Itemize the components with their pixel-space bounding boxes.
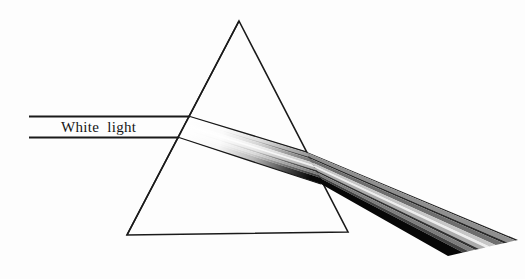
prism-triangle [127,21,348,235]
prism-dispersion-figure: White light [0,0,525,279]
white-light-label: White light [61,119,137,135]
figure-canvas: White light [0,0,525,279]
prism-outline [127,21,348,235]
